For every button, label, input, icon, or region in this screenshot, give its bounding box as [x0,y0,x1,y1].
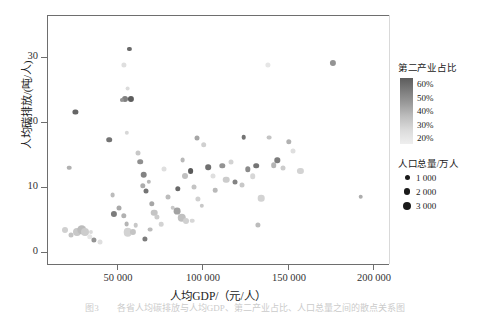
scatter-point [250,174,256,180]
scatter-point [122,62,127,67]
scatter-point [147,227,152,232]
size-legend-dot-cell [398,175,416,180]
scatter-point [245,167,250,172]
colorbar-tick-60pct: 60% [417,79,434,89]
scatter-points-layer [47,15,389,264]
scatter-point [130,229,136,235]
scatter-point [121,213,126,218]
scatter-point [73,109,78,114]
scatter-point [267,135,272,140]
scatter-point [106,137,112,143]
x-tick-50000: 50 000 [117,264,118,270]
scatter-point [147,180,151,184]
scatter-point [291,149,296,154]
scatter-point [213,188,218,193]
scatter-point [253,163,259,169]
figure-caption: 图3 各省人均碳排放与人均GDP、第二产业占比、人口总量之间的散点关系图 [30,301,460,314]
scatter-point [239,183,244,188]
scatter-point [358,194,363,199]
plot-right-spine [389,15,390,264]
scatter-point [91,237,96,242]
colorbar-tick-40pct: 40% [417,106,434,116]
scatter-point [286,139,291,144]
scatter-point [255,222,260,227]
size-legend-label: 1 000 [416,173,436,183]
size-legend-dot [404,188,411,195]
scatter-point [124,222,129,227]
scatter-point [223,177,230,184]
x-tick-label-50000: 50 000 [104,272,133,283]
scatter-point [183,218,189,224]
scatter-point [142,236,147,241]
scatter-point [166,195,171,200]
scatter-point [195,196,200,201]
scatter-point [110,193,115,198]
scatter-point [67,166,72,171]
x-tick-100000: 100 000 [202,264,203,270]
colorbar-group: 60%50%40%30%20% [398,78,478,144]
y-tick-label-0: 0 [33,245,38,256]
scatter-point [162,167,167,172]
scatter-point [206,164,212,170]
scatter-point [125,86,130,91]
scatter-point [201,142,207,148]
size-legend-item: 3 000 [398,199,478,212]
scatter-point [149,201,154,206]
scatter-point [89,230,93,234]
scatter-point [190,218,195,223]
size-legend-dot-cell [398,202,416,210]
scatter-point [159,222,164,227]
scatter-point [188,168,194,174]
size-legend-group: 人口总量/万人 1 0002 0003 000 [398,156,478,212]
scatter-point [175,186,180,191]
size-legend-dot-cell [398,188,416,195]
figure-scatter-carbon-gdp: 30 20 10 0 50 000 100 000 150 000 200 00… [0,0,481,314]
y-axis-label: 人均碳排放/(吨/人) [18,30,34,180]
legend: 第二产业占比 60%50%40%30%20% 人口总量/万人 1 0002 00… [398,60,478,212]
scatter-point [137,159,143,165]
size-legend-label: 3 000 [416,201,436,211]
scatter-point [111,211,117,217]
size-legend-dot [405,175,410,180]
size-legend-label: 2 000 [416,187,436,197]
scatter-point [200,204,204,208]
scatter-point [140,172,147,179]
colorbar-tick-50pct: 50% [417,93,434,103]
scatter-point [265,62,270,67]
scatter-point [275,157,280,162]
y-tick-label-10: 10 [28,180,39,191]
scatter-point [154,214,159,219]
size-legend-item: 2 000 [398,185,478,198]
scatter-point [128,96,134,102]
scatter-point [62,227,68,233]
scatter-point [232,179,237,184]
scatter-point [144,189,149,194]
scatter-point [116,205,121,210]
size-legend-item: 1 000 [398,171,478,184]
scatter-point [271,162,277,168]
scatter-point [182,173,188,179]
scatter-point [220,163,225,168]
scatter-point [124,131,128,135]
scatter-point [98,240,103,245]
scatter-point [330,60,336,66]
scatter-point [133,223,138,228]
scatter-point [194,136,199,141]
scatter-point [127,47,131,51]
x-tick-150000: 150 000 [288,264,289,270]
scatter-point [136,151,141,156]
scatter-point [180,158,185,163]
scatter-point [241,135,246,140]
scatter-point [192,184,197,189]
colorbar-title: 第二产业占比 [398,60,478,74]
scatter-point [210,173,215,178]
scatter-point [297,168,303,174]
x-tick-label-100000: 100 000 [186,272,220,283]
x-tick-label-150000: 150 000 [272,272,306,283]
size-legend-title: 人口总量/万人 [398,156,478,170]
scatter-point [258,195,265,202]
colorbar-gradient [400,78,413,144]
colorbar-tick-30pct: 30% [417,120,434,130]
size-legend-rows: 1 0002 0003 000 [398,171,478,212]
x-tick-200000: 200 000 [373,264,374,270]
